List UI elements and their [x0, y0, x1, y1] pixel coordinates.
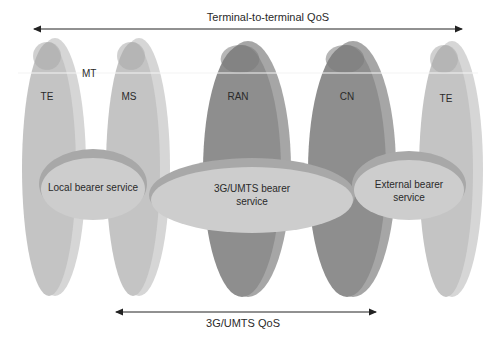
terminal-to-terminal-qos-label: Terminal-to-terminal QoS: [207, 11, 329, 23]
bearer-label-local: Local bearer service: [48, 182, 138, 193]
node-top-cap: [326, 45, 365, 73]
node-top-cap: [117, 42, 145, 70]
bearer-label-external: service: [393, 192, 425, 203]
bearer-face: [354, 160, 464, 220]
bearer-local: Local bearer service: [39, 149, 147, 220]
qos-architecture-diagram: Terminal-to-terminal QoS MT TEMSRANCNTE …: [0, 0, 499, 340]
bearer-label-external: External bearer: [375, 179, 444, 190]
node-label-te-left: TE: [41, 91, 54, 102]
bearer-umts: 3G/UMTS bearerservice: [149, 158, 355, 233]
bearer-external: External bearerservice: [352, 151, 466, 220]
bearer-label-umts: 3G/UMTS bearer: [214, 183, 291, 194]
node-top-cap: [221, 45, 260, 73]
node-top-cap: [430, 45, 458, 73]
node-label-ran: RAN: [227, 91, 248, 102]
node-top-cap: [33, 42, 61, 70]
node-label-cn: CN: [340, 91, 354, 102]
mt-label: MT: [82, 68, 96, 79]
node-label-te-right: TE: [440, 93, 453, 104]
node-label-ms: MS: [122, 91, 137, 102]
bearer-label-umts: service: [236, 196, 268, 207]
umts-qos-label: 3G/UMTS QoS: [206, 317, 280, 329]
